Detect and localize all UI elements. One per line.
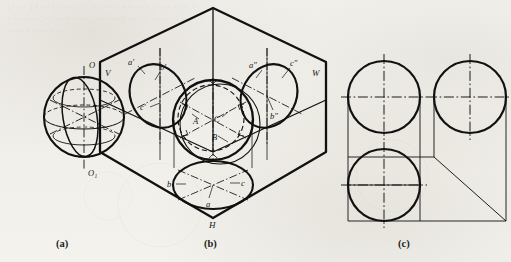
fold-edge-right <box>213 100 326 152</box>
label-plane-v: V <box>105 68 112 78</box>
svg-text:~ ~ ~ ~ ~ ~ ~ ~ ~ ~: ~ ~ ~ ~ ~ ~ ~ ~ ~ ~ <box>8 27 65 36</box>
caption-panel-c: (c) <box>398 238 410 250</box>
label-C: C <box>214 114 220 124</box>
label-a: a <box>206 199 210 209</box>
label-b: b <box>167 179 171 189</box>
svg-text:| ~ ~ ~ 1 1 ~ ~ 1 | ~ ~ ~ , ~: | ~ ~ ~ 1 1 ~ ~ 1 | ~ ~ ~ , ~ , ~ , ~ ~ … <box>8 3 196 12</box>
label-b-prime: b′ <box>160 62 166 72</box>
label-c-prime: c′ <box>140 102 146 112</box>
meridian-ellipse-a <box>57 75 103 159</box>
ghost-bleedthrough-layer: | ~ ~ ~ 1 1 ~ ~ 1 | ~ ~ ~ , ~ , ~ , ~ ~ … <box>8 3 428 247</box>
caption-panel-b: (b) <box>204 238 217 250</box>
v-leader-b-prime <box>155 72 160 80</box>
space-leader-B <box>218 136 228 142</box>
label-plane-h: H <box>208 220 216 230</box>
mitre-line-45deg <box>434 157 506 221</box>
v-leader-c-prime <box>150 103 160 107</box>
label-b-double-prime: b″ <box>270 111 278 121</box>
figure-svg: | ~ ~ ~ 1 1 ~ ~ 1 | ~ ~ ~ , ~ , ~ , ~ ~ … <box>0 0 511 262</box>
panel-a: O O₁ (a) <box>44 60 124 250</box>
label-pole-bottom: O₁ <box>88 168 97 178</box>
label-B: B <box>212 132 217 142</box>
label-A: A <box>192 116 199 126</box>
label-plane-w: W <box>312 68 321 78</box>
h-leader-a <box>209 185 213 198</box>
caption-panel-a: (a) <box>56 238 69 250</box>
w-leader-b-double-prime <box>267 96 273 110</box>
panel-c: (c) <box>341 54 511 250</box>
label-pole-top: O <box>89 60 95 70</box>
label-c-double-prime: c″ <box>290 58 298 68</box>
label-a-double-prime: a″ <box>249 60 257 70</box>
w-leader-a-double-prime <box>256 70 262 78</box>
svg-text:~ | ~ ~ ~ ~ , ~ | ~ ~ ~ ~ ~ ~: ~ | ~ ~ ~ ~ , ~ | ~ ~ ~ ~ ~ ~ , ~ ~ ~ ~ … <box>8 15 185 24</box>
w-leader-c-double-prime <box>282 68 290 78</box>
panel-b: a′ b′ c′ V a″ c″ b″ W <box>100 8 326 250</box>
label-c: c <box>241 178 245 188</box>
figure-root: | ~ ~ ~ 1 1 ~ ~ 1 | ~ ~ ~ , ~ , ~ , ~ ~ … <box>0 0 511 262</box>
label-a-prime: a′ <box>128 57 134 67</box>
